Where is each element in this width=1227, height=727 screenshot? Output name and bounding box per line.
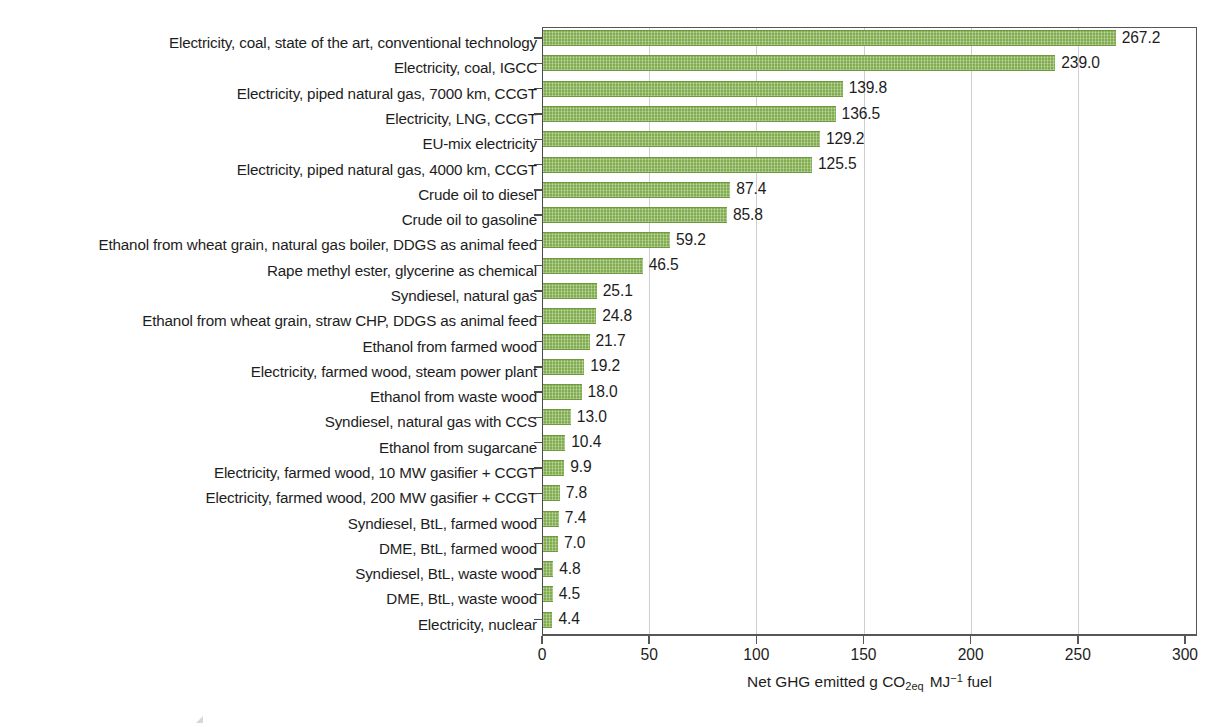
y-axis-tick [534,442,542,443]
bar-value-label: 4.8 [559,561,580,577]
bar-value-label: 7.8 [566,485,587,501]
x-axis-line [542,635,1197,637]
chart-row: DME, BtL, waste wood4.5 [0,586,1227,611]
chart-row: Ethanol from waste wood18.0 [0,384,1227,409]
bar [543,359,584,375]
bar-value-label: 7.4 [565,510,586,526]
bar-value-label: 9.9 [570,459,591,475]
bar [543,258,643,274]
bar [543,182,730,198]
category-label: Electricity, coal, IGCC [394,55,537,80]
x-axis-tick-label: 250 [1065,646,1091,664]
chart-row: Electricity, farmed wood, steam power pl… [0,359,1227,384]
category-label: Rape methyl ester, glycerine as chemical [267,258,537,283]
chart-row: Ethanol from farmed wood21.7 [0,334,1227,359]
y-axis-tick [534,63,542,64]
x-axis-tick-label: 300 [1172,646,1198,664]
bar-value-label: 10.4 [571,434,601,450]
y-axis-tick [534,265,542,266]
category-label: Electricity, LNG, CCGT [385,106,537,131]
x-axis-tick-label: 50 [640,646,657,664]
y-axis-tick [534,316,542,317]
y-axis-tick [534,391,542,392]
category-label: Syndiesel, natural gas [391,283,537,308]
category-label: Crude oil to gasoline [402,207,537,232]
y-axis-tick [534,164,542,165]
category-label: Electricity, farmed wood, 200 MW gasifie… [206,485,537,510]
chart-row: Electricity, piped natural gas, 4000 km,… [0,157,1227,182]
category-label: Syndiesel, BtL, farmed wood [348,511,537,536]
x-axis-title-mid: MJ [930,673,951,690]
bar [543,106,836,122]
bar [543,131,820,147]
category-label: Electricity, piped natural gas, 7000 km,… [237,81,537,106]
chart-row: Ethanol from wheat grain, natural gas bo… [0,232,1227,257]
category-label: Electricity, piped natural gas, 4000 km,… [237,157,537,182]
category-label: Electricity, farmed wood, 10 MW gasifier… [214,460,537,485]
bar-value-label: 24.8 [602,308,632,324]
y-axis-tick [534,139,542,140]
y-axis-tick [534,493,542,494]
bar [543,55,1055,71]
category-label: EU-mix electricity [422,131,537,156]
x-axis-tick-label: 150 [850,646,876,664]
bar-value-label: 87.4 [736,181,766,197]
bar-value-label: 21.7 [596,333,626,349]
bar-value-label: 239.0 [1061,55,1100,71]
y-axis-tick [534,189,542,190]
y-axis-tick [534,568,542,569]
y-axis-tick [534,113,542,114]
chart-row: Electricity, farmed wood, 10 MW gasifier… [0,460,1227,485]
y-axis-tick [534,467,542,468]
chart-row: Electricity, coal, state of the art, con… [0,30,1227,55]
category-label: Ethanol from sugarcane [379,435,537,460]
chart-row: Rape methyl ester, glycerine as chemical… [0,258,1227,283]
category-label: Ethanol from wheat grain, straw CHP, DDG… [142,308,537,333]
category-label: Electricity, coal, state of the art, con… [169,30,537,55]
bar [543,308,596,324]
category-label: Ethanol from waste wood [370,384,537,409]
bar [543,511,559,527]
bar-value-label: 136.5 [842,106,881,122]
category-label: Syndiesel, natural gas with CCS [325,409,537,434]
bar [543,485,560,501]
bar-value-label: 85.8 [733,207,763,223]
chart-row: EU-mix electricity129.2 [0,131,1227,156]
bar [543,435,565,451]
bar-value-label: 13.0 [577,409,607,425]
y-axis-tick [534,594,542,595]
bar-chart: Electricity, coal, state of the art, con… [0,0,1227,727]
bar [543,612,552,628]
bar-value-label: 46.5 [649,257,679,273]
bar [543,81,843,97]
x-axis-title-pre: Net GHG emitted g CO [747,673,905,690]
chart-row: DME, BtL, farmed wood7.0 [0,536,1227,561]
x-axis-title-post: fuel [967,673,992,690]
x-axis-tick-0 [541,636,542,644]
category-label: DME, BtL, farmed wood [379,536,537,561]
bar [543,30,1116,46]
chart-row: Syndiesel, BtL, waste wood4.8 [0,561,1227,586]
bar [543,384,582,400]
y-axis-tick [534,619,542,620]
chart-row: Syndiesel, natural gas with CCS13.0 [0,409,1227,434]
bar [543,586,553,602]
bar-value-label: 59.2 [676,232,706,248]
x-axis-tick-200 [970,636,971,644]
bar-value-label: 129.2 [826,131,865,147]
bar-value-label: 25.1 [603,283,633,299]
chart-row: Electricity, farmed wood, 200 MW gasifie… [0,485,1227,510]
chart-row: Ethanol from wheat grain, straw CHP, DDG… [0,308,1227,333]
bar-value-label: 4.4 [558,611,579,627]
category-label: Ethanol from farmed wood [362,334,537,359]
category-label: Crude oil to diesel [418,182,537,207]
bar [543,561,553,577]
chart-row: Electricity, piped natural gas, 7000 km,… [0,81,1227,106]
scan-artifact [196,716,203,723]
x-axis-tick-100 [756,636,757,644]
x-axis-tick-150 [863,636,864,644]
bar-value-label: 18.0 [588,384,618,400]
chart-row: Syndiesel, BtL, farmed wood7.4 [0,511,1227,536]
y-axis-tick [534,417,542,418]
bar [543,536,558,552]
